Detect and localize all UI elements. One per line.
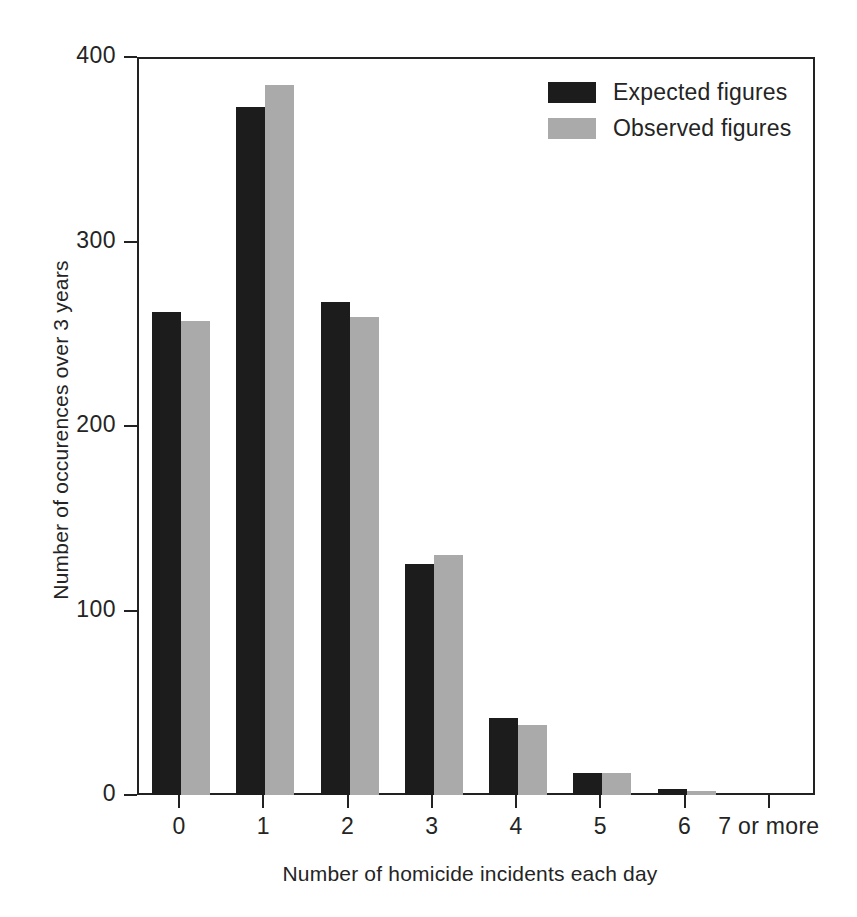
x-tick-mark — [599, 795, 601, 808]
y-tick-label: 100 — [76, 596, 116, 623]
y-tick-mark — [124, 425, 137, 427]
y-tick-mark — [124, 241, 137, 243]
legend-item-observed: Observed figures — [548, 110, 798, 146]
bar-observed — [265, 85, 294, 795]
bar-expected — [321, 302, 350, 795]
bar-chart-figure: Number of occurences over 3 years 010020… — [0, 0, 857, 917]
legend-item-expected: Expected figures — [548, 74, 798, 110]
x-axis-ticks: 01234567 or more — [137, 795, 815, 855]
bar-expected — [152, 312, 181, 795]
x-tick-mark — [515, 795, 517, 808]
x-tick-mark — [262, 795, 264, 808]
bar-expected — [236, 107, 265, 795]
bar-expected — [405, 564, 434, 795]
x-tick-label: 1 — [257, 813, 270, 840]
y-tick-label: 200 — [76, 411, 116, 438]
x-tick-label: 4 — [510, 813, 523, 840]
legend-swatch-expected-icon — [548, 82, 596, 103]
x-tick-mark — [684, 795, 686, 808]
y-tick-label: 400 — [76, 42, 116, 69]
x-tick-mark — [178, 795, 180, 808]
chart-legend: Expected figures Observed figures — [548, 74, 798, 146]
legend-swatch-observed-icon — [548, 118, 596, 139]
bar-observed — [434, 555, 463, 795]
x-tick-label: 5 — [594, 813, 607, 840]
bar-observed — [602, 773, 631, 795]
bar-observed — [350, 317, 379, 795]
y-tick-label: 0 — [103, 780, 116, 807]
bar-observed — [518, 725, 547, 795]
x-tick-mark — [347, 795, 349, 808]
legend-label-observed: Observed figures — [613, 115, 791, 142]
legend-label-expected: Expected figures — [613, 79, 788, 106]
x-tick-label: 7 or more — [718, 813, 819, 840]
bar-expected — [573, 773, 602, 795]
x-tick-label: 2 — [341, 813, 354, 840]
x-axis-title: Number of homicide incidents each day — [120, 862, 820, 886]
bar-observed — [181, 321, 210, 795]
x-tick-mark — [431, 795, 433, 808]
y-axis-ticks: 0100200300400 — [0, 57, 137, 795]
bars-container — [139, 57, 813, 795]
y-tick-mark — [124, 56, 137, 58]
y-tick-mark — [124, 610, 137, 612]
y-tick-label: 300 — [76, 227, 116, 254]
x-tick-label: 0 — [173, 813, 186, 840]
x-tick-label: 6 — [678, 813, 691, 840]
x-tick-label: 3 — [425, 813, 438, 840]
x-tick-mark — [768, 795, 770, 808]
bar-expected — [489, 718, 518, 795]
y-tick-mark — [124, 794, 137, 796]
